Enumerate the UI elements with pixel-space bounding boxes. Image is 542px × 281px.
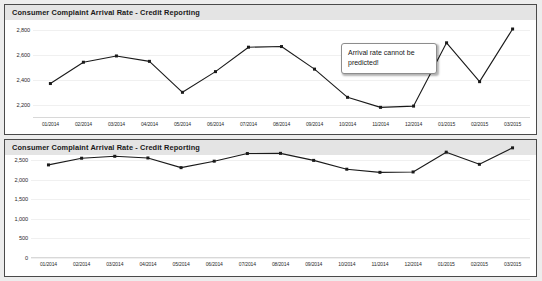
data-point-marker — [378, 171, 381, 174]
x-axis-tick-label: 03/2014 — [106, 261, 123, 267]
x-axis-tick-label: 03/2015 — [504, 261, 521, 267]
data-point-marker — [146, 156, 149, 159]
x-axis-tick-label: 01/2014 — [42, 121, 59, 127]
x-axis-tick-label: 06/2014 — [207, 121, 224, 127]
x-axis-tick-label: 03/2014 — [108, 121, 125, 127]
y-axis-tick-label: 2,000 — [15, 177, 29, 183]
x-axis-tick-label: 10/2014 — [339, 121, 356, 127]
data-point-marker — [47, 163, 50, 166]
data-point-marker — [478, 80, 481, 83]
x-axis-tick-label: 01/2015 — [438, 121, 455, 127]
x-axis-tick-label: 07/2014 — [240, 121, 257, 127]
data-point-marker — [312, 159, 315, 162]
data-point-marker — [345, 168, 348, 171]
data-point-marker — [113, 155, 116, 158]
annotation-callout-top: Arrival rate cannot be predicted! — [341, 43, 437, 74]
data-point-marker — [511, 28, 514, 31]
data-point-marker — [214, 70, 217, 73]
x-axis-tick-label: 07/2014 — [239, 261, 256, 267]
data-point-marker — [445, 41, 448, 44]
data-point-marker — [213, 160, 216, 163]
x-axis-tick-label: 02/2015 — [471, 121, 488, 127]
x-axis-tick-label: 02/2014 — [73, 261, 90, 267]
data-point-marker — [246, 152, 249, 155]
slide-canvas: Consumer Complaint Arrival Rate - Credit… — [0, 0, 542, 281]
data-point-marker — [180, 166, 183, 169]
x-axis-tick-label: 02/2015 — [471, 261, 488, 267]
chart-title-bottom: Consumer Complaint Arrival Rate - Credit… — [5, 140, 536, 155]
x-axis-tick-label: 03/2015 — [504, 121, 521, 127]
plot-area-wrap-top: 2,8002,6002,4002,20001/201402/201403/201… — [5, 20, 536, 134]
x-axis-tick-label: 04/2014 — [141, 121, 158, 127]
y-axis-tick-label: 500 — [19, 235, 28, 241]
x-axis-tick-label: 02/2014 — [75, 121, 92, 127]
data-point-marker — [49, 82, 52, 85]
x-axis-tick-label: 04/2014 — [139, 261, 156, 267]
x-axis-tick-label: 08/2014 — [273, 121, 290, 127]
y-axis-tick-label: 2,800 — [17, 27, 31, 33]
plot-area-top: 2,8002,6002,4002,20001/201402/201403/201… — [33, 24, 530, 118]
data-point-marker — [82, 61, 85, 64]
data-point-marker — [279, 152, 282, 155]
data-point-marker — [247, 46, 250, 49]
data-point-marker — [80, 157, 83, 160]
data-point-marker — [280, 45, 283, 48]
y-axis-tick-label: 2,500 — [15, 157, 29, 163]
data-point-marker — [445, 151, 448, 154]
data-point-marker — [115, 54, 118, 57]
gridline — [31, 258, 530, 259]
chart-panel-top: Consumer Complaint Arrival Rate - Credit… — [4, 4, 537, 135]
chart-title-top: Consumer Complaint Arrival Rate - Credit… — [5, 5, 536, 20]
x-axis-tick-label: 09/2014 — [306, 121, 323, 127]
x-axis-tick-label: 06/2014 — [206, 261, 223, 267]
x-axis-tick-label: 11/2014 — [372, 121, 389, 127]
plot-area-wrap-bottom: 2,5002,0001,5001,000500001/201402/201403… — [5, 155, 536, 276]
data-point-marker — [511, 146, 514, 149]
series-line — [33, 24, 530, 118]
data-point-marker — [181, 91, 184, 94]
data-point-marker — [379, 106, 382, 109]
data-point-marker — [148, 60, 151, 63]
x-axis-tick-label: 09/2014 — [305, 261, 322, 267]
x-axis-tick-label: 11/2014 — [372, 261, 389, 267]
chart-panel-bottom: Consumer Complaint Arrival Rate - Credit… — [4, 139, 537, 277]
x-axis-tick-label: 12/2014 — [405, 121, 422, 127]
series-line — [31, 160, 530, 258]
y-axis-tick-label: 1,500 — [15, 196, 29, 202]
x-axis-tick-label: 05/2014 — [173, 261, 190, 267]
y-axis-tick-label: 2,400 — [17, 77, 31, 83]
x-axis-tick-label: 01/2014 — [40, 261, 57, 267]
x-axis-tick-label: 12/2014 — [405, 261, 422, 267]
plot-area-bottom: 2,5002,0001,5001,000500001/201402/201403… — [31, 160, 530, 258]
data-point-marker — [478, 163, 481, 166]
x-axis-tick-label: 05/2014 — [174, 121, 191, 127]
data-point-marker — [346, 96, 349, 99]
data-point-marker — [412, 170, 415, 173]
y-axis-tick-label: 2,200 — [17, 102, 31, 108]
data-point-marker — [313, 68, 316, 71]
data-point-marker — [412, 105, 415, 108]
y-axis-tick-label: 0 — [25, 255, 28, 261]
y-axis-tick-label: 2,600 — [17, 52, 31, 58]
x-axis-tick-label: 08/2014 — [272, 261, 289, 267]
y-axis-tick-label: 1,000 — [15, 216, 29, 222]
x-axis-tick-label: 01/2015 — [438, 261, 455, 267]
x-axis-tick-label: 10/2014 — [338, 261, 355, 267]
